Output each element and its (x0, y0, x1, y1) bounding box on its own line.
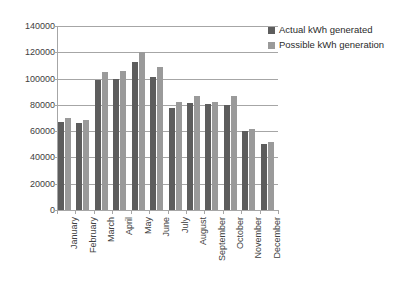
legend-swatch-icon (268, 27, 275, 34)
x-axis-tick-mark (186, 210, 187, 214)
y-axis-tick-label: 120000 (3, 48, 55, 57)
bar-group (57, 26, 75, 210)
bar-group (131, 26, 149, 210)
bar (120, 71, 126, 210)
y-axis-tick-label: 20000 (3, 179, 55, 188)
y-axis-tick-label: 0 (3, 206, 55, 215)
chart-legend: Actual kWh generatedPossible kWh generat… (268, 25, 384, 55)
bar (205, 104, 211, 210)
x-axis-tick-mark (223, 210, 224, 214)
bar (76, 123, 82, 210)
x-axis-tick-label: December (273, 217, 282, 259)
legend-item[interactable]: Actual kWh generated (268, 25, 384, 35)
bar (113, 79, 119, 210)
bar (231, 96, 237, 210)
bar (212, 102, 218, 210)
bar-group (168, 26, 186, 210)
x-axis-tick-mark (149, 210, 150, 214)
x-axis-tick-mark (204, 210, 205, 214)
bar (169, 108, 175, 211)
bar (268, 142, 274, 210)
x-axis-tick-label: July (181, 217, 190, 233)
bar (242, 131, 248, 211)
x-axis-tick-mark (131, 210, 132, 214)
x-axis-tick-mark (57, 210, 58, 214)
x-axis-tick-label: April (125, 217, 134, 235)
x-axis-tick-label: March (107, 217, 116, 242)
legend-label: Possible kWh generation (279, 40, 384, 50)
bar (65, 118, 71, 210)
bar (157, 67, 163, 210)
bar (261, 144, 267, 210)
x-axis-tick-label: October (236, 217, 245, 249)
bar (187, 103, 193, 210)
x-axis-tick-label: January (70, 217, 79, 249)
bar-group (112, 26, 130, 210)
x-axis-tick-mark (241, 210, 242, 214)
legend-swatch-icon (268, 42, 275, 49)
bar-group (204, 26, 222, 210)
y-axis: 020000400006000080000100000120000140000 (0, 0, 55, 292)
y-axis-tick-label: 140000 (3, 22, 55, 31)
bar (132, 62, 138, 210)
x-axis-tick-label: May (144, 217, 153, 234)
y-axis-tick-label: 60000 (3, 127, 55, 136)
y-axis-tick-label: 40000 (3, 153, 55, 162)
x-axis-tick-label: November (254, 217, 263, 259)
y-axis-tick-label: 100000 (3, 74, 55, 83)
x-axis-tick-mark (94, 210, 95, 214)
bar (224, 105, 230, 210)
bar (83, 120, 89, 210)
bar-group (75, 26, 93, 210)
bar (176, 102, 182, 210)
x-axis-tick-mark (168, 210, 169, 214)
bar (194, 96, 200, 210)
x-axis-tick-mark (112, 210, 113, 214)
bar (102, 72, 108, 210)
bar-group (186, 26, 204, 210)
bar-chart: 020000400006000080000100000120000140000 … (0, 0, 408, 292)
bar-group (241, 26, 259, 210)
y-axis-tick-label: 80000 (3, 100, 55, 109)
legend-label: Actual kWh generated (279, 25, 372, 35)
legend-item[interactable]: Possible kWh generation (268, 40, 384, 50)
x-axis-tick-label: September (218, 217, 227, 261)
x-axis-tick-mark (75, 210, 76, 214)
bar (139, 52, 145, 210)
x-axis-tick-mark (260, 210, 261, 214)
bar-group (149, 26, 167, 210)
x-axis-tick-label: August (199, 217, 208, 245)
plot-area (57, 26, 278, 210)
bar-group (223, 26, 241, 210)
bar (58, 122, 64, 210)
x-axis-tick-label: June (162, 217, 171, 237)
bar (95, 80, 101, 210)
bar (150, 77, 156, 210)
bar (249, 129, 255, 210)
x-axis-tick-mark (278, 210, 279, 214)
x-axis-tick-label: February (89, 217, 98, 253)
bar-group (94, 26, 112, 210)
